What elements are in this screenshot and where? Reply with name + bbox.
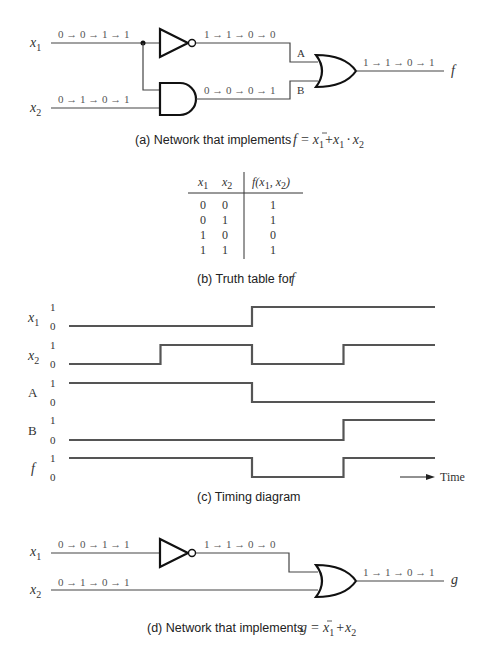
wire-B-label: B [297,84,304,96]
network-a: x1 x2 0 → 0 → 1 → 1 0 → 1 → 0 → 1 1 → 1 … [29,28,457,150]
level-1: 1 [50,414,56,426]
tt-cell: 1 [200,228,206,242]
timing-diagram: x1 x2 A B f 1 0 1 0 1 0 1 0 1 0 Time (c)… [27,301,465,504]
level-0: 0 [50,358,56,370]
wire-not-to-or [196,553,318,572]
not-output-sequence: 1 → 1 → 0 → 0 [204,538,276,550]
output-sequence: 1 → 1 → 0 → 1 [363,56,435,68]
time-arrow-icon [426,474,435,480]
not-gate [160,539,188,567]
waveform-b [69,420,435,440]
output-g-label: g [451,572,458,587]
timing-label-f: f [31,461,37,476]
caption-b-var: f [291,271,297,286]
input-x1-label: x1 [29,544,41,562]
tt-cell: 1 [200,243,206,257]
waveform-x2 [69,345,435,364]
waveform-x1 [69,307,435,326]
level-0: 0 [50,320,56,332]
tt-cell: 0 [200,198,206,212]
waveform-f [69,458,435,477]
tt-row: 1 0 0 [200,228,276,242]
tt-row: 0 1 1 [200,213,276,227]
level-0: 0 [50,471,56,483]
x1-sequence: 0 → 0 → 1 → 1 [58,538,130,550]
tt-cell: 0 [222,198,228,212]
tt-header-x1: x1 [197,175,208,191]
level-0: 0 [50,396,56,408]
not-bubble [189,550,196,557]
x1-sequence: 0 → 0 → 1 → 1 [58,28,130,40]
caption-a: (a) Network that implements [135,133,291,147]
caption-d-formula: g=x1+x2 [300,620,356,638]
waveform-a [69,383,435,402]
input-x1-label: x1 [29,35,41,53]
waveforms [69,307,435,477]
timing-label-B: B [28,423,37,438]
tt-cell: 1 [222,243,228,257]
time-label: Time [440,470,465,484]
and-gate [160,83,196,115]
tt-cell: 0 [270,228,276,242]
caption-c: (c) Timing diagram [197,490,301,504]
timing-label-x1: x1 [27,310,39,328]
tt-cell: 0 [200,213,206,227]
tt-row: 0 0 1 [200,198,276,212]
caption-b: (b) Truth table for [197,272,293,286]
level-1: 1 [50,452,56,464]
tt-cell: 1 [222,213,228,227]
level-1: 1 [50,377,56,389]
wire-A-label: A [297,47,305,59]
output-sequence: 1 → 1 → 0 → 1 [363,566,435,578]
tt-row: 1 1 1 [200,243,276,257]
level-1: 1 [50,301,56,313]
tt-cell: 1 [270,243,276,257]
x2-sequence: 0 → 1 → 0 → 1 [58,93,130,105]
tt-header-f: f(x1, x2) [252,175,290,191]
tt-cell: 0 [222,228,228,242]
tt-header-x2: x2 [221,175,232,191]
timing-label-A: A [28,385,38,400]
output-f-label: f [451,63,457,78]
wire-x1-to-and [143,43,160,90]
x2-sequence: 0 → 1 → 0 → 1 [58,576,130,588]
or-gate [316,565,356,597]
input-x2-label: x2 [29,100,41,118]
level-1: 1 [50,339,56,351]
not-gate [160,29,188,57]
caption-a-formula: f=x1+x1·x2 [293,132,364,150]
input-x2-label: x2 [29,582,41,600]
truth-table: x1 x2 f(x1, x2) 0 0 1 0 1 1 1 0 0 1 1 1 … [188,172,303,286]
timing-label-x2: x2 [27,348,39,366]
or-gate [316,55,356,87]
caption-d: (d) Network that implements [147,621,303,635]
tt-cell: 1 [270,213,276,227]
tt-cell: 1 [270,198,276,212]
not-output-sequence: 1 → 1 → 0 → 0 [204,28,276,40]
not-bubble [189,40,196,47]
logic-figure: x1 x2 0 → 0 → 1 → 1 0 → 1 → 0 → 1 1 → 1 … [0,0,494,655]
and-output-sequence: 0 → 0 → 0 → 1 [204,84,276,96]
level-0: 0 [50,434,56,446]
network-d: x1 x2 0 → 0 → 1 → 1 1 → 1 → 0 → 0 0 → 1 … [29,538,458,638]
